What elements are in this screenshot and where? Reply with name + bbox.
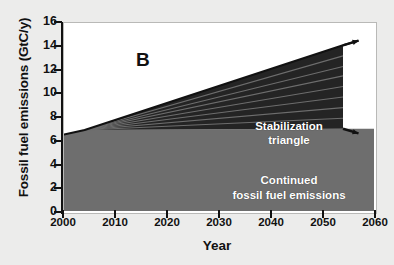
y-tick-label-12: 12	[17, 62, 57, 76]
y-tick-label-16: 16	[17, 14, 57, 28]
y-tick-label-6: 6	[17, 133, 57, 147]
y-tick-label-4: 4	[17, 157, 57, 171]
y-tick-label-10: 10	[17, 85, 57, 99]
plot-area: B Stabilization triangle Continued fossi…	[63, 22, 377, 214]
x-tick-label-2000: 2000	[36, 216, 90, 228]
x-tick-label-2040: 2040	[244, 216, 298, 228]
chart-svg	[64, 23, 374, 211]
y-tick-label-14: 14	[17, 38, 57, 52]
figure-panel-b: Fossil fuel emissions (GtC/y) B Stabiliz…	[0, 0, 394, 265]
panel-label: B	[136, 49, 150, 71]
y-tick-label-2: 2	[17, 180, 57, 194]
y-tick-label-8: 8	[17, 109, 57, 123]
continued-emissions-area	[64, 129, 374, 211]
x-tick-label-2030: 2030	[192, 216, 246, 228]
x-tick-label-2020: 2020	[140, 216, 194, 228]
x-tick-label-2010: 2010	[88, 216, 142, 228]
x-tick-label-2060: 2060	[348, 216, 394, 228]
x-axis-title: Year	[40, 238, 394, 253]
x-tick-label-2050: 2050	[296, 216, 350, 228]
